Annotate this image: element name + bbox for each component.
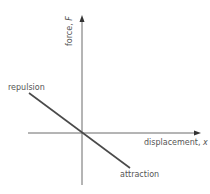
y-axis-label: force, F (66, 16, 74, 46)
x-axis-label: displacement, x (144, 139, 208, 147)
diagram-graphics (0, 0, 210, 194)
repulsion-label: repulsion (8, 84, 45, 92)
x-axis-arrow-icon (194, 131, 201, 136)
y-axis-label-text: force, (65, 21, 74, 46)
x-axis-label-text: displacement, (144, 138, 203, 147)
attraction-label: attraction (120, 171, 159, 179)
y-axis-variable: F (65, 16, 74, 21)
force-displacement-diagram: force, F displacement, x repulsion attra… (0, 0, 210, 194)
y-axis-arrow-icon (80, 15, 85, 22)
x-axis-variable: x (203, 138, 208, 147)
force-line (29, 93, 130, 168)
